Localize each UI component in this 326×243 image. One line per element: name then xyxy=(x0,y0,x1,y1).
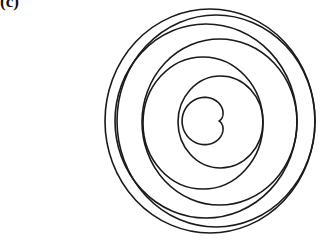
cardioid-curve xyxy=(182,97,223,144)
ring-2 xyxy=(143,57,263,189)
spiral-rings-figure xyxy=(0,0,326,243)
concentric-rings xyxy=(105,9,315,233)
